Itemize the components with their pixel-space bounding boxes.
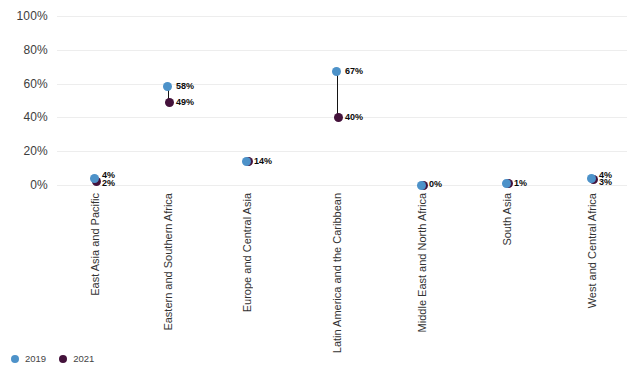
- legend: 20192021: [11, 353, 94, 364]
- gridline: [57, 84, 627, 85]
- value-label: 1%: [514, 180, 527, 188]
- data-point-2019: [332, 67, 341, 76]
- legend-label: 2021: [73, 353, 94, 364]
- category-label: East Asia and Pacific: [88, 193, 102, 296]
- category-label: South Asia: [500, 193, 514, 246]
- gridline: [57, 185, 627, 186]
- chart: 0%20%40%60%80%100%4%2%East Asia and Paci…: [0, 0, 633, 382]
- y-axis-tick-label: 80%: [0, 42, 48, 58]
- data-point-2021: [334, 113, 343, 122]
- category-label: Eastern and Southern Africa: [161, 193, 175, 331]
- connector-line: [337, 72, 338, 118]
- legend-item-2019: 2019: [11, 353, 46, 364]
- value-label: 40%: [345, 113, 363, 122]
- data-point-2019: [242, 157, 251, 166]
- y-axis-tick-label: 100%: [0, 8, 48, 24]
- y-axis-tick-label: 0%: [0, 177, 48, 193]
- data-point-2021: [165, 98, 174, 107]
- legend-label: 2019: [25, 353, 46, 364]
- data-point-2019: [502, 179, 511, 188]
- gridline: [57, 16, 627, 17]
- data-point-2019: [587, 174, 596, 183]
- y-axis-tick-label: 40%: [0, 109, 48, 125]
- data-point-2019: [163, 82, 172, 91]
- category-label: Europe and Central Asia: [240, 193, 254, 312]
- value-label: 67%: [345, 67, 363, 76]
- category-label: Latin America and the Caribbean: [330, 193, 344, 353]
- legend-swatch-2021: [59, 355, 67, 363]
- value-label: 2%: [102, 180, 115, 188]
- legend-item-2021: 2021: [59, 353, 94, 364]
- legend-swatch-2019: [11, 355, 19, 363]
- value-label: 49%: [176, 98, 194, 107]
- data-point-2019: [90, 174, 99, 183]
- category-label: West and Central Africa: [585, 193, 599, 308]
- value-label: 58%: [176, 82, 194, 91]
- category-label: Middle East and North Africa: [415, 193, 429, 332]
- value-label: 14%: [254, 158, 272, 166]
- gridline: [57, 151, 627, 152]
- gridline: [57, 50, 627, 51]
- data-point-2019: [417, 181, 426, 190]
- y-axis-tick-label: 20%: [0, 143, 48, 159]
- value-label: 0%: [429, 181, 442, 189]
- y-axis-tick-label: 60%: [0, 76, 48, 92]
- value-label: 3%: [599, 179, 612, 187]
